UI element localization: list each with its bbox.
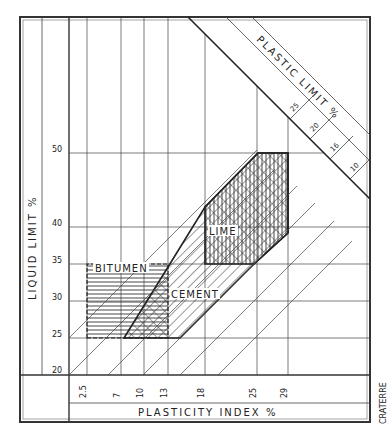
x-tick-labels: 2.5 7 10 13 18 25 29: [79, 385, 289, 398]
x-tick-7: 7: [113, 393, 122, 398]
y-tick-30: 30: [52, 293, 62, 302]
y-tick-35: 35: [52, 256, 62, 265]
x-tick-10: 10: [136, 388, 145, 398]
plot-area: [42, 17, 370, 403]
y-tick-25: 25: [52, 330, 62, 339]
y-tick-20: 20: [52, 366, 62, 375]
y-tick-labels: 50 40 35 30 25 20: [52, 145, 62, 375]
x-tick-2.5: 2.5: [79, 385, 88, 398]
plasticity-chart: 25 20 16 10 PLASTIC LIMIT % 50 40 35 30 …: [0, 0, 392, 442]
x-tick-25: 25: [249, 388, 258, 398]
pl-tick-20: 20: [309, 121, 321, 133]
label-lime: LIME: [209, 226, 236, 237]
x-axis-label: PLASTICITY INDEX %: [138, 407, 277, 418]
x-tick-29: 29: [280, 388, 289, 398]
label-bitumen: BITUMEN: [95, 263, 148, 274]
pl-tick-25: 25: [289, 101, 301, 113]
y-axis-label: LIQUID LIMIT %: [27, 196, 38, 300]
x-tick-13: 13: [160, 388, 169, 398]
pl-tick-10: 10: [349, 161, 361, 173]
pl-tick-16: 16: [329, 141, 341, 153]
label-cement: CEMENT: [171, 289, 219, 300]
x-tick-18: 18: [197, 388, 206, 398]
credit-label: CRATERRE: [379, 382, 388, 424]
y-tick-40: 40: [52, 219, 62, 228]
y-tick-50: 50: [52, 145, 62, 154]
frame: [20, 17, 370, 422]
